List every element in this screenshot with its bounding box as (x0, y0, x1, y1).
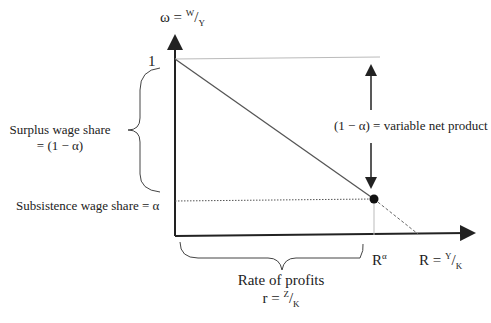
y-tick-one: 1 (148, 53, 156, 70)
surplus-wage-label: Surplus wage share = (1 − α) (4, 122, 116, 154)
unit-level-line (175, 57, 380, 59)
subsistence-line (175, 199, 374, 201)
wage-share-extension (374, 199, 418, 234)
subsistence-wage-label: Subsistence wage share = α (16, 198, 159, 214)
profits-label: Rate of profits r = Z/K (208, 272, 354, 309)
equilibrium-point (370, 195, 379, 204)
r-alpha-tick: Rα (372, 251, 387, 269)
net-product-label: (1 − α) = variable net product (334, 118, 488, 134)
x-axis (175, 233, 468, 236)
y-axis-label: ω = W/Y (160, 8, 205, 28)
profits-brace (180, 242, 363, 270)
surplus-brace (128, 68, 160, 192)
x-axis-label: R = Y/K (419, 251, 462, 271)
